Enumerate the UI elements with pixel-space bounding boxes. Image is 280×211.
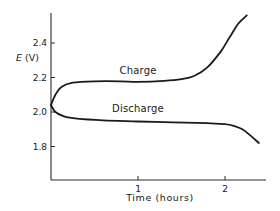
x-tick-label: 2 [222, 184, 228, 194]
y-tick-label: 2.4 [33, 38, 48, 48]
y-tick-label: 2.0 [33, 107, 48, 117]
charge-curve [51, 15, 247, 105]
discharge-label: Discharge [112, 103, 164, 114]
y-tick-label: 1.8 [33, 142, 48, 152]
plot-area [51, 15, 259, 143]
discharge-charge-chart: 1.82.02.22.412 E (V)Time (hours)ChargeDi… [0, 0, 280, 211]
y-tick-label: 2.2 [33, 73, 47, 83]
x-axis-title: Time (hours) [125, 192, 194, 203]
y-axis-title: E (V) [16, 52, 39, 63]
charge-label: Charge [119, 65, 156, 76]
